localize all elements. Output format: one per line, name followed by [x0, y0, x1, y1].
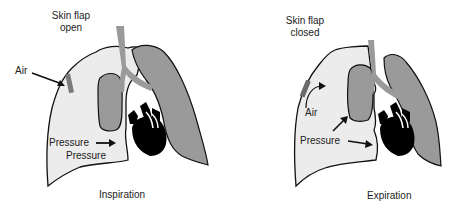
flap-label-line1: Skin flap: [50, 10, 92, 22]
expiration-flap-label: Skin flap closed: [284, 15, 326, 39]
air-arrow-icon: [32, 73, 62, 84]
inspiration-flap-label: Skin flap open: [50, 10, 92, 34]
inspiration-panel: [32, 26, 208, 186]
flap-label-line2: closed: [284, 27, 326, 39]
inspiration-caption: Inspiration: [99, 189, 145, 201]
collapsed-lung: [98, 74, 122, 131]
inspiration-pressure-label-2: Pressure: [66, 150, 106, 162]
collapsed-lung: [348, 65, 374, 122]
inspiration-air-label: Air: [15, 65, 27, 77]
flap-label-line2: open: [50, 22, 92, 34]
flap-label-line1: Skin flap: [284, 15, 326, 27]
inspiration-pressure-label-1: Pressure: [49, 137, 89, 149]
expiration-pressure-label: Pressure: [300, 135, 340, 147]
expiration-caption: Expiration: [367, 190, 411, 202]
expiration-air-label: Air: [305, 107, 317, 119]
